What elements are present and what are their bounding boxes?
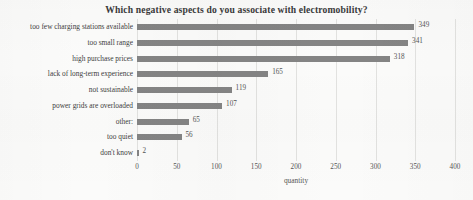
- x-axis-ticks: 050100150200250300350400: [0, 163, 473, 175]
- bar-row: 65: [137, 114, 473, 130]
- x-tick-label-0: 0: [117, 163, 157, 171]
- bar-row: 318: [137, 51, 473, 67]
- category-label: other:: [116, 117, 133, 126]
- x-tick-label-250: 250: [316, 163, 356, 171]
- x-tick-label-300: 300: [356, 163, 396, 171]
- category-label: not sustainable: [89, 85, 133, 94]
- bar: [137, 87, 232, 93]
- bar-row: 165: [137, 66, 473, 82]
- bar-value-label: 165: [272, 68, 283, 76]
- x-tick-label-150: 150: [236, 163, 276, 171]
- category-label: too quiet: [107, 132, 133, 141]
- x-tick-label-350: 350: [395, 163, 435, 171]
- x-tick-label-100: 100: [197, 163, 237, 171]
- bar-value-label: 56: [186, 131, 193, 139]
- bar-row: 341: [137, 35, 473, 51]
- category-label: high purchase prices: [72, 54, 133, 63]
- x-tick-label-50: 50: [157, 163, 197, 171]
- bar-row: 349: [137, 19, 473, 35]
- bar-value-label: 341: [412, 37, 423, 45]
- bar-chart: Which negative aspects do you associate …: [0, 0, 473, 200]
- x-axis-label: quantity: [137, 176, 455, 185]
- bar: [137, 103, 222, 109]
- bar: [137, 40, 408, 46]
- chart-title: Which negative aspects do you associate …: [0, 4, 473, 15]
- x-tick-label-200: 200: [276, 163, 316, 171]
- bar: [137, 56, 390, 62]
- bar: [137, 134, 182, 140]
- bar-row: 56: [137, 129, 473, 145]
- bars-container: 34934131816511910765562: [137, 19, 455, 161]
- bar-row: 119: [137, 82, 473, 98]
- plot-area: 34934131816511910765562: [137, 19, 455, 161]
- bar: [137, 119, 189, 125]
- bar-value-label: 2: [143, 147, 147, 155]
- category-label: too few charging stations available: [30, 22, 133, 31]
- category-label: too small range: [87, 38, 133, 47]
- category-axis-labels: too few charging stations availabletoo s…: [0, 19, 137, 161]
- x-tick-label-400: 400: [435, 163, 473, 171]
- bar-value-label: 318: [394, 53, 405, 61]
- category-label: lack of long-term experience: [48, 69, 133, 78]
- bar-value-label: 107: [226, 100, 237, 108]
- bar-row: 107: [137, 98, 473, 114]
- category-label: power grids are overloaded: [52, 101, 133, 110]
- bar: [137, 24, 414, 30]
- bar: [137, 71, 268, 77]
- bar: [137, 150, 139, 156]
- bar-value-label: 119: [236, 84, 247, 92]
- bar-value-label: 65: [193, 116, 200, 124]
- category-label: don't know: [100, 148, 133, 157]
- bar-row: 2: [137, 145, 473, 161]
- bar-value-label: 349: [418, 21, 429, 29]
